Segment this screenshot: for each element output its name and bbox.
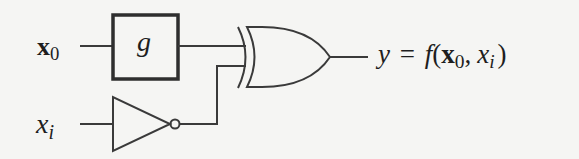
xi-label: xi: [36, 110, 54, 142]
x0-subscript: 0: [50, 43, 59, 64]
equals-sign: =: [400, 39, 415, 69]
g-box-label: g: [137, 28, 151, 56]
open-paren: (: [432, 39, 441, 69]
xi-subscript: i: [48, 121, 54, 143]
x0-label: x0: [37, 34, 59, 64]
arg2-subscript: i: [489, 51, 494, 72]
arg1-symbol: x: [441, 39, 455, 69]
comma: ,: [464, 39, 471, 69]
output-y: y: [378, 39, 390, 69]
not-gate-triangle: [113, 97, 170, 151]
xi-symbol: x: [36, 108, 48, 139]
x0-symbol: x: [37, 32, 50, 61]
xor-gate-body: [247, 27, 330, 87]
circuit-diagram: x0 xi g y = f(x0,xi): [0, 0, 579, 159]
arg1-subscript: 0: [455, 51, 465, 72]
xor-back-arc: [238, 27, 246, 88]
circuit-drawing: [0, 0, 579, 159]
not-output-wire: [180, 66, 247, 124]
arg2-symbol: x: [477, 39, 489, 69]
output-equation: y = f(x0,xi): [378, 41, 507, 72]
close-paren: ): [498, 39, 507, 69]
